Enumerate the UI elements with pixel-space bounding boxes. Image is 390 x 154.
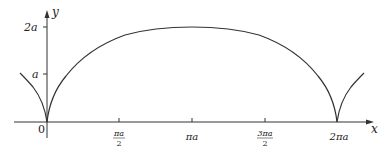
x-axis-label: x bbox=[371, 122, 378, 136]
y-axis-arrow-icon bbox=[45, 10, 50, 18]
cycloid-right-branch bbox=[337, 73, 364, 122]
x-tick-label-pi-a: πa bbox=[185, 131, 199, 142]
x-tick-label-3pi-a-half-den: 2 bbox=[262, 139, 267, 148]
x-tick-label-pi-a-half-den: 2 bbox=[116, 139, 121, 148]
x-tick-label-3pi-a-half-num: 3πa bbox=[257, 129, 272, 138]
x-tick-label-2pi-a: 2πa bbox=[329, 131, 349, 142]
y-axis-label: y bbox=[51, 5, 59, 19]
y-tick-label-a: a bbox=[32, 68, 39, 81]
origin-label: 0 bbox=[38, 123, 45, 136]
cycloid-diagram: y x 0 2a a πa 2 πa 3πa 2 2πa bbox=[0, 0, 390, 154]
x-tick-label-pi-a-half-num: πa bbox=[113, 129, 124, 138]
y-tick-label-2a: 2a bbox=[23, 21, 38, 34]
cycloid-arch bbox=[47, 27, 337, 122]
